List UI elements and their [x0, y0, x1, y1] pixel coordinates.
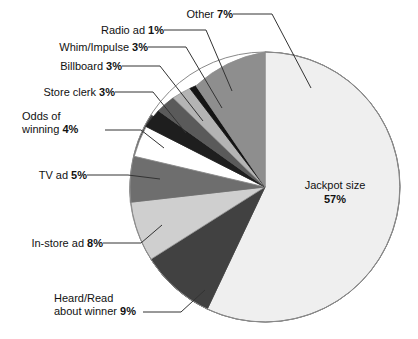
- label-heard-read-about-winner: Heard/Read about winner 9%: [54, 292, 184, 318]
- label-jackpot-size-name: Jackpot size: [305, 179, 366, 191]
- label-store-clerk-name: Store clerk: [43, 86, 96, 98]
- label-radio-ad: Radio ad 1%: [46, 24, 164, 37]
- label-jackpot-size: Jackpot size 57%: [292, 178, 378, 206]
- label-radio-ad-pct: 1%: [148, 24, 164, 36]
- label-whim-impulse-pct: 3%: [132, 41, 148, 53]
- label-whim-impulse-name: Whim/Impulse: [59, 41, 129, 53]
- label-jackpot-size-pct: 57%: [292, 192, 378, 206]
- label-in-store-ad: In-store ad 8%: [3, 237, 103, 250]
- label-store-clerk-pct: 3%: [99, 86, 115, 98]
- label-odds-of-winning-pct: 4%: [62, 123, 78, 135]
- label-whim-impulse: Whim/Impulse 3%: [28, 41, 148, 54]
- label-other: Other 7%: [110, 8, 233, 21]
- label-odds-of-winning-line1: Odds of: [22, 110, 132, 123]
- label-heard-read-name: about winner: [54, 305, 117, 317]
- label-radio-ad-name: Radio ad: [101, 24, 145, 36]
- label-billboard-pct: 3%: [106, 60, 122, 72]
- label-tv-ad: TV ad 5%: [10, 169, 87, 182]
- label-billboard: Billboard 3%: [22, 60, 122, 73]
- label-tv-ad-pct: 5%: [71, 169, 87, 181]
- label-store-clerk: Store clerk 3%: [10, 86, 115, 99]
- label-other-pct: 7%: [217, 8, 233, 20]
- label-odds-of-winning-name: winning: [22, 123, 59, 135]
- label-billboard-name: Billboard: [60, 60, 103, 72]
- label-in-store-ad-name: In-store ad: [31, 237, 84, 249]
- label-in-store-ad-pct: 8%: [87, 237, 103, 249]
- label-odds-of-winning: Odds of winning 4%: [22, 110, 132, 136]
- label-heard-read-line1: Heard/Read: [54, 292, 184, 305]
- pie-chart-figure: Other 7% Radio ad 1% Whim/Impulse 3% Bil…: [0, 0, 418, 339]
- label-tv-ad-name: TV ad: [39, 169, 68, 181]
- label-other-name: Other: [187, 8, 215, 20]
- label-heard-read-pct: 9%: [120, 305, 136, 317]
